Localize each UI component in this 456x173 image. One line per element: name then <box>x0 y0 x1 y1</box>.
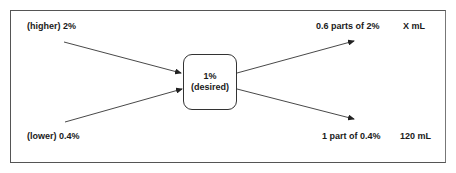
arrow-desired-to-higher-parts <box>237 41 354 73</box>
desired-caption: (desired) <box>191 82 229 93</box>
lower-concentration-label: (lower) 0.4% <box>27 131 80 141</box>
higher-parts-label: 0.6 parts of 2% <box>316 21 380 31</box>
desired-concentration-box: 1% (desired) <box>183 54 237 110</box>
higher-concentration-label: (higher) 2% <box>27 21 76 31</box>
lower-parts-volume: 120 mL <box>400 131 431 141</box>
arrow-desired-to-lower-parts <box>237 89 354 119</box>
arrow-higher-to-desired <box>64 42 181 73</box>
lower-parts-label: 1 part of 0.4% <box>322 131 381 141</box>
arrow-lower-to-desired <box>65 89 182 122</box>
desired-percent: 1% <box>203 71 216 82</box>
higher-parts-volume: X mL <box>403 21 425 31</box>
